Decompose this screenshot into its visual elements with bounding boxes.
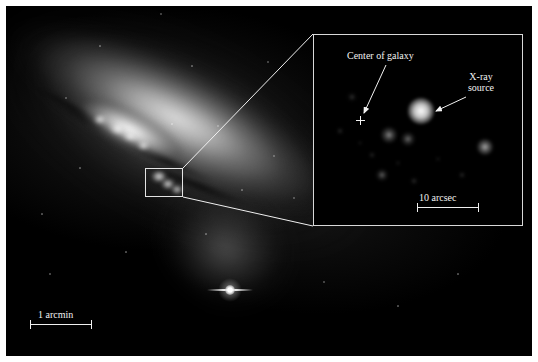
foreground-star <box>216 276 244 304</box>
field-star <box>79 167 81 169</box>
field-star <box>293 197 295 199</box>
label-center-of-galaxy: Center of galaxy <box>347 50 414 61</box>
source-m <box>357 140 363 146</box>
inset-scalebar-label: 10 arcsec <box>419 192 456 203</box>
source-j <box>368 151 376 159</box>
galaxy-knot <box>110 124 126 133</box>
field-star <box>267 61 269 63</box>
source-c <box>401 132 415 146</box>
scalebar-tick-right <box>478 203 479 212</box>
field-star <box>205 233 207 235</box>
figure-root: 1 arcmin Center of galaxy X-ray source <box>0 0 538 362</box>
source-l <box>435 156 441 162</box>
label-xray-source: X-ray source <box>454 71 508 93</box>
source-b <box>381 127 397 143</box>
scalebar-tick-right <box>91 320 92 329</box>
x-ray-inset-panel[interactable]: Center of galaxy X-ray source 10 arcsec <box>313 34 523 226</box>
source-h <box>347 92 357 102</box>
galaxy-knot <box>138 142 149 149</box>
field-star <box>41 213 43 215</box>
source-f <box>410 177 418 185</box>
scalebar-tick-left <box>417 203 418 212</box>
main-scalebar-label: 1 arcmin <box>38 309 73 320</box>
star-core <box>225 285 235 295</box>
center-of-galaxy-marker <box>356 116 365 125</box>
galaxy-knot <box>124 132 137 140</box>
source-e <box>376 169 388 181</box>
field-star <box>457 273 459 275</box>
source-i <box>336 127 344 135</box>
source-k <box>395 160 401 166</box>
scalebar-tick-left <box>30 320 31 329</box>
arrow-xray-source <box>436 97 466 111</box>
scalebar-line <box>30 324 92 325</box>
source-d <box>477 139 493 155</box>
label-xray-source-line2: source <box>468 82 494 93</box>
scalebar-line <box>417 207 479 208</box>
galaxy-knot <box>94 116 106 123</box>
zoom-region-box[interactable] <box>145 168 183 197</box>
field-star <box>397 305 399 307</box>
field-star <box>99 45 101 47</box>
label-xray-source-line1: X-ray <box>469 71 492 82</box>
field-star <box>217 125 219 127</box>
source-g <box>458 171 466 179</box>
field-star <box>191 65 193 67</box>
field-star <box>125 251 127 253</box>
field-star <box>65 97 67 99</box>
field-star <box>171 123 173 125</box>
arrow-center-of-galaxy <box>364 65 386 113</box>
bright-xray-source <box>408 98 434 124</box>
inset-annotation-arrows <box>314 35 522 225</box>
field-star <box>241 189 243 191</box>
field-star <box>323 281 325 283</box>
astronomical-plate: 1 arcmin Center of galaxy X-ray source <box>6 6 532 356</box>
field-star <box>49 273 51 275</box>
